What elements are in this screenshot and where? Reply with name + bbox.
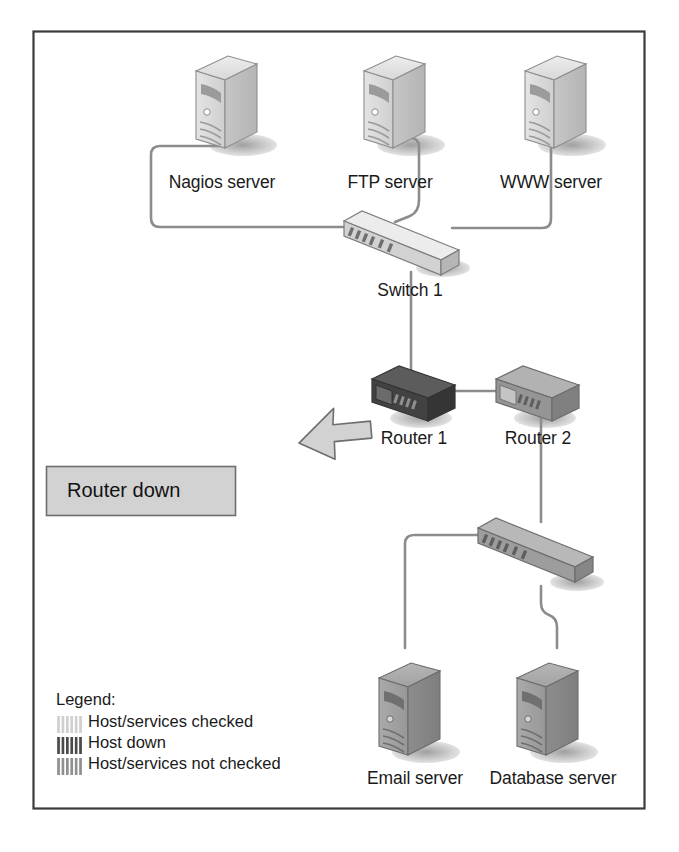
node-label-ftp-server: FTP server — [347, 172, 432, 193]
legend-item-not-checked: Host/services not checked — [56, 753, 281, 774]
legend-swatch-down-spacer — [56, 734, 82, 751]
legend-swatch-checked-spacer — [56, 713, 82, 730]
legend-label-not-checked: Host/services not checked — [88, 754, 281, 773]
server-power-led — [372, 109, 378, 115]
legend-label-down: Host down — [88, 733, 166, 752]
legend: Legend: Host/services checked Host down … — [56, 690, 281, 774]
server-power-led — [533, 109, 539, 115]
legend-label-checked: Host/services checked — [88, 712, 253, 731]
legend-item-checked: Host/services checked — [56, 711, 281, 732]
node-label-www-server: WWW server — [500, 172, 602, 193]
server-power-led — [525, 716, 531, 722]
network-diagram: Nagios server FTP server WWW server Swit… — [0, 0, 679, 852]
server-power-led — [387, 716, 393, 722]
node-label-router1: Router 1 — [381, 428, 447, 449]
node-label-switch1: Switch 1 — [377, 280, 442, 301]
node-label-nagios-server: Nagios server — [169, 172, 276, 193]
server-power-led — [204, 109, 210, 115]
node-label-database-server: Database server — [490, 768, 617, 789]
node-label-email-server: Email server — [367, 768, 463, 789]
legend-item-down: Host down — [56, 732, 281, 753]
node-label-router2: Router 2 — [505, 428, 571, 449]
callout-label: Router down — [67, 479, 180, 502]
legend-swatch-not-checked-spacer — [56, 755, 82, 772]
legend-title: Legend: — [56, 690, 281, 709]
